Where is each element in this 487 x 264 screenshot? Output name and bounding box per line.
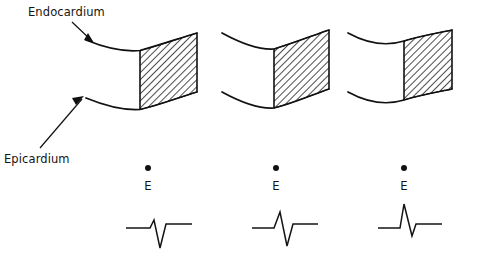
myocardium-ecg-diagram: E E E: [0, 0, 487, 264]
panel-2-infarct-zone: [274, 30, 329, 108]
panel-3-electrode-dot: [401, 165, 407, 171]
epicardium-leader-line: [40, 99, 82, 148]
endocardium-label: Endocardium: [28, 5, 105, 19]
annotation-epicardium: Epicardium: [4, 96, 84, 166]
panel-2-electrode-label: E: [272, 179, 279, 193]
panel-1-electrode-dot: [145, 165, 151, 171]
panel-2-electrode-dot: [273, 165, 279, 171]
panel-2-ecg-trace: [252, 212, 318, 246]
figure-container: E E E: [0, 0, 487, 264]
annotation-endocardium: Endocardium: [28, 5, 105, 43]
panel-3-electrode-label: E: [400, 179, 407, 193]
panel-1-infarct-zone: [140, 33, 197, 110]
panel-1-ecg-trace: [126, 220, 192, 248]
panel-2: E: [222, 30, 329, 246]
panel-3-ecg-trace: [378, 204, 442, 236]
panel-3-infarct-zone: [404, 30, 452, 100]
panel-1-electrode-label: E: [144, 179, 151, 193]
epicardium-label: Epicardium: [4, 152, 70, 166]
panel-1: E: [86, 33, 197, 248]
panel-3: E: [348, 30, 452, 236]
